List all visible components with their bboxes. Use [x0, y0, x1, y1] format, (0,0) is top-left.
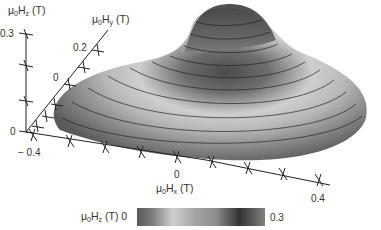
colorbar-min-label: (T) 0 — [102, 210, 127, 222]
colorbar-max-label: 0.3 — [270, 212, 284, 223]
x-axis-title: μ0Hx (T) — [156, 183, 193, 197]
unit-label: (T) — [177, 182, 193, 194]
z-tick-top: 0.3 — [0, 28, 14, 39]
h-symbol: H — [18, 4, 26, 16]
z-axis-title: μ0Hz (T) — [8, 5, 45, 19]
y-axis-title: μ0Hy (T) — [92, 14, 129, 28]
unit-label: (T) — [113, 13, 129, 25]
y-tick-0: 0 — [53, 72, 59, 83]
unit-label: (T) — [29, 4, 45, 16]
x-tick-min: − 0.4 — [18, 147, 41, 158]
colorbar — [137, 208, 265, 226]
x-tick-max: 0.4 — [311, 193, 325, 204]
colorbar-title: μ0Hz (T) 0 — [81, 211, 127, 225]
h-symbol: H — [166, 182, 174, 194]
z-tick-bottom: 0 — [10, 126, 16, 137]
h-symbol: H — [91, 210, 99, 222]
y-tick-02: 0.2 — [73, 42, 87, 53]
h-symbol: H — [102, 13, 110, 25]
x-tick-0: 0 — [174, 169, 180, 180]
